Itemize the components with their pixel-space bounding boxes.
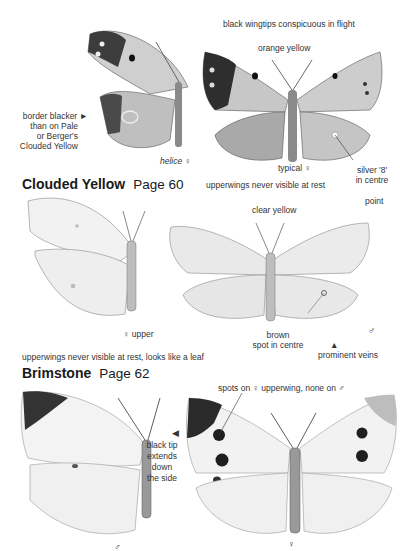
tip-line-1: black tip bbox=[141, 440, 183, 451]
female-symbol-icon: ♀ bbox=[185, 156, 191, 166]
page-reference[interactable]: Page 62 bbox=[99, 366, 149, 381]
clouded-yellow-heading: Clouded YellowPage 60 bbox=[22, 176, 184, 192]
veins-text: prominent veins bbox=[318, 350, 378, 360]
border-line-3: or Berger's bbox=[10, 131, 88, 141]
label-border-blacker: border blacker ► than on Pale or Berger'… bbox=[10, 111, 88, 151]
border-line-1: border blacker ► bbox=[10, 111, 88, 121]
label-orange-yellow: orange yellow bbox=[258, 43, 310, 53]
clouded-yellow-helice-illustration bbox=[80, 22, 190, 152]
helice-text: helice bbox=[160, 156, 182, 166]
label-spots: spots on ♀ upperwing, none on ♂ bbox=[218, 383, 345, 393]
label-black-tip: black tip extends down the side bbox=[141, 440, 183, 484]
label-prominent-veins: ▲ prominent veins bbox=[318, 340, 378, 360]
label-typical-female: typical ♀ bbox=[278, 163, 311, 173]
tip-line-4: the side bbox=[141, 473, 183, 484]
species-name: Clouded Yellow bbox=[22, 176, 125, 192]
brimstone-heading: BrimstonePage 62 bbox=[22, 365, 150, 381]
label-brown-spot: brown spot in centre bbox=[248, 330, 308, 350]
label-silver-8: silver '8' in centre bbox=[350, 165, 394, 185]
tip-line-3: down bbox=[141, 462, 183, 473]
label-female-upper: ♀ upper bbox=[123, 329, 153, 339]
label-helice: helice ♀ bbox=[160, 156, 191, 166]
label-point: point bbox=[365, 196, 383, 206]
brimstone-side-illustration bbox=[25, 196, 155, 321]
silver-line-1: silver '8' bbox=[350, 165, 394, 175]
border-line-4: Clouded Yellow bbox=[10, 141, 88, 151]
male-symbol-icon: ♂ bbox=[368, 326, 376, 336]
brown-line-1: brown bbox=[248, 330, 308, 340]
silver-line-2: in centre bbox=[350, 175, 394, 185]
label-clear-yellow: clear yellow bbox=[252, 205, 296, 215]
large-white-female-illustration bbox=[184, 393, 399, 538]
brimstone-open-illustration bbox=[168, 205, 368, 323]
arrow-pointer-icon: ► bbox=[80, 111, 88, 121]
tip-line-2: extends bbox=[141, 451, 183, 462]
female-symbol-icon: ♀ bbox=[288, 539, 295, 549]
arrow-pointer-icon: ◀ bbox=[172, 428, 179, 438]
label-black-wingtips: black wingtips conspicuous in flight bbox=[223, 19, 355, 29]
page-reference[interactable]: Page 60 bbox=[133, 177, 183, 192]
male-symbol-icon: ♂ bbox=[114, 542, 121, 551]
label-upperwings-rest: upperwings never visible at rest bbox=[206, 180, 325, 190]
arrow-up-icon: ▲ bbox=[318, 340, 378, 350]
species-name: Brimstone bbox=[22, 365, 91, 381]
clouded-yellow-typical-illustration bbox=[200, 40, 385, 165]
border-line-2: than on Pale bbox=[10, 121, 88, 131]
brown-line-2: spot in centre bbox=[248, 340, 308, 350]
label-looks-like-leaf: upperwings never visible at rest, looks … bbox=[22, 352, 204, 362]
